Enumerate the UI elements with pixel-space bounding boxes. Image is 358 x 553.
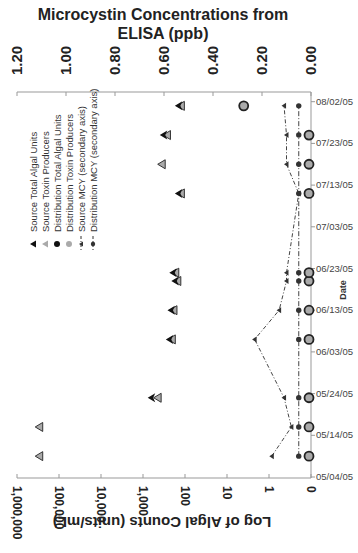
distribution-algal-point [305,422,314,431]
secondary-tick-label: 0.80 [106,46,123,75]
primary-tick-label: 10 [220,486,234,500]
source-mcy-point [284,132,289,138]
legend-triangle-icon [30,241,36,248]
legend-label: Source Total Algal Units [28,132,39,232]
distribution-mcy-point [296,103,301,108]
distribution-algal-point [305,189,314,198]
chart-title: Microcystin Concentrations from ELISA (p… [38,6,289,42]
chart-title-line1: Microcystin Concentrations from [38,6,289,23]
primary-tick-label: 1 [262,486,276,493]
primary-tick-label: 1,000 [136,486,150,516]
date-axis-label: Date [338,280,348,300]
primary-tick-label: 0 [304,486,318,493]
legend-label: Source Toxin Producers [40,131,51,232]
distribution-algal-point [305,335,314,344]
date-tick-label: 06/03/05 [316,346,353,357]
legend-label: Source MCY (secondary axis) [76,106,87,232]
date-tick-label: 06/23/05 [316,263,353,274]
date-axis: 08/02/0507/23/0507/13/0507/03/0506/23/05… [311,96,353,482]
primary-tick-label: 1,000,000 [10,486,24,540]
distribution-algal-point [305,268,314,277]
secondary-tick-label: 0.60 [155,46,172,75]
secondary-tick-label: 0.00 [302,46,319,75]
distribution-mcy-point [296,337,301,342]
legend-circle-icon [54,241,60,247]
legend-small-circle-icon [91,242,95,246]
distribution-algal-point [239,101,248,110]
date-tick-label: 07/13/05 [316,179,353,190]
secondary-axis-ticks: 1.201.000.800.600.400.200.00 [8,46,319,96]
date-tick-label: 07/23/05 [316,137,353,148]
date-tick-label: 08/02/05 [316,96,353,107]
distribution-mcy-point [296,395,301,400]
distribution-algal-point [305,306,314,315]
distribution-mcy-point [296,191,301,196]
chart-title-line2: ELISA (ppb) [118,25,209,42]
distribution-algal-point [305,160,314,169]
date-tick-label: 06/13/05 [316,304,353,315]
distribution-mcy-point [296,270,301,275]
legend-circle-icon [66,241,72,247]
date-tick-label: 05/24/05 [316,388,353,399]
distribution-mcy-point [296,162,301,167]
source-mcy-point [252,336,257,342]
distribution-mcy-point [296,424,301,429]
date-tick-label: 07/03/05 [316,221,353,232]
source-mcy-point [284,270,289,276]
legend-label: Distribution MCY (secondary axis) [88,89,99,232]
distribution-mcy-point [296,308,301,313]
source-mcy-point [282,395,287,401]
date-tick-label: 05/04/05 [316,471,353,482]
source-toxin-producers-point [158,160,166,169]
distribution-mcy-point [296,278,301,283]
source-toxin-producers-point [35,422,43,431]
source-toxin-producers-point [35,452,43,461]
distribution-algal-point [305,393,314,402]
legend: Source Total Algal UnitsSource Toxin Pro… [28,89,99,252]
distribution-mcy-point [296,132,301,137]
legend-label: Distribution Total Algal Units [52,114,63,232]
distribution-algal-point [305,452,314,461]
legend-label: Distribution Toxin Producers [64,114,75,232]
date-tick-label: 05/14/05 [316,429,353,440]
secondary-tick-label: 0.20 [253,46,270,75]
source-mcy-point [269,453,274,459]
secondary-tick-label: 0.40 [204,46,221,75]
secondary-tick-label: 1.20 [8,46,25,75]
legend-triangle-icon [42,241,48,248]
distribution-mcy-point [296,453,301,458]
primary-tick-label: 100 [178,486,192,506]
source-toxin-producers-point [154,393,162,402]
primary-axis-label: Log of Algal Counts (units/mL) [53,514,272,531]
secondary-tick-label: 1.00 [57,46,74,75]
distribution-algal-point [305,131,314,140]
rotated-scatter-chart: Microcystin Concentrations from ELISA (p… [0,0,358,553]
